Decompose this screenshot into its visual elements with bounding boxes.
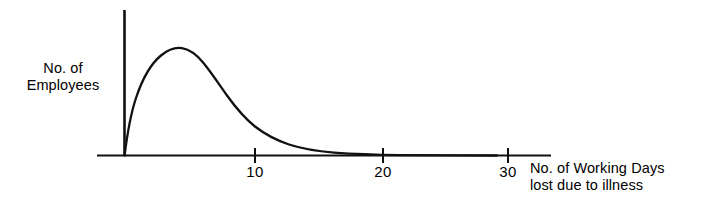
y-axis-label-line2: Employees — [22, 77, 104, 94]
chart-figure: 10 20 30 No. of Employees No. of Working… — [0, 0, 718, 215]
distribution-curve — [125, 48, 497, 156]
x-axis-label-line1: No. of Working Days — [530, 160, 665, 177]
x-tick-label-20: 20 — [374, 163, 391, 180]
x-axis-label: No. of Working Days lost due to illness — [530, 160, 665, 194]
x-axis-label-line2: lost due to illness — [530, 177, 665, 194]
y-axis-label: No. of Employees — [22, 60, 104, 94]
x-tick-label-30: 30 — [499, 163, 516, 180]
x-tick-label-10: 10 — [246, 163, 263, 180]
y-axis-label-line1: No. of — [22, 60, 104, 77]
